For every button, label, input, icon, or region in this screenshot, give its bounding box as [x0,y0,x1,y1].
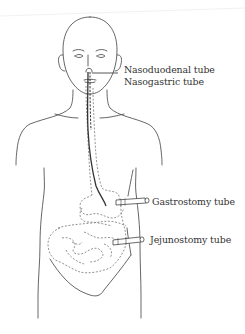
nasal-tubes[interactable] [88,72,118,206]
label-nasoduodenal-tube: Nasoduodenal tube [124,64,215,75]
head-outline [58,17,121,94]
jejunostomy-tube-icon[interactable] [113,237,144,245]
torso-outline [16,90,162,318]
label-gastrostomy-tube: Gastrostomy tube [152,196,235,207]
scan-edge-line [0,8,245,16]
body-illustration [0,0,245,334]
gastrostomy-tube-icon[interactable] [116,170,149,206]
left-eye-icon [75,55,83,58]
label-jejunostomy-tube: Jejunostomy tube [150,234,231,245]
feeding-tube-diagram: Nasoduodenal tube Nasogastric tube Gastr… [0,0,245,334]
label-nasogastric-tube: Nasogastric tube [124,76,204,87]
right-eye-icon [97,55,105,58]
